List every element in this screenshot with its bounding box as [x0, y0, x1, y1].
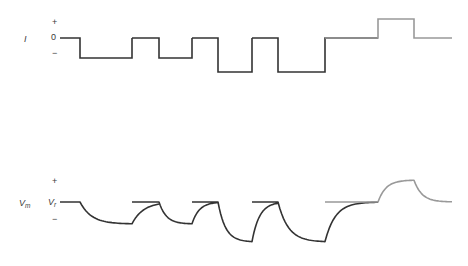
voltage-trace-group	[60, 180, 452, 241]
current-trace-group	[60, 19, 452, 72]
voltage-trace-depolarizing	[325, 180, 452, 202]
current-trace-dark	[60, 38, 378, 72]
voltage-trace-dark	[60, 202, 378, 242]
current-trace-depolarizing	[325, 19, 452, 38]
waveform-canvas	[0, 0, 468, 266]
figure-root: I + 0 − Vm + Vr −	[0, 0, 468, 266]
